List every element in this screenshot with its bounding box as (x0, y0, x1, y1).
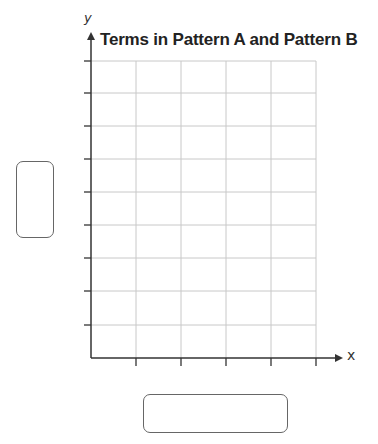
y-axis-answer-box[interactable] (16, 161, 54, 238)
x-axis-label: x (347, 347, 355, 363)
chart-canvas (0, 0, 378, 444)
x-axis-answer-box[interactable] (143, 394, 288, 433)
axis-ticks (84, 61, 316, 366)
grid-lines (91, 61, 316, 358)
chart-title: Terms in Pattern A and Pattern B (100, 30, 357, 50)
axes (91, 38, 337, 358)
y-axis-label: y (84, 10, 92, 25)
y-axis-arrow-icon (87, 32, 95, 40)
x-axis-arrow-icon (335, 354, 343, 362)
